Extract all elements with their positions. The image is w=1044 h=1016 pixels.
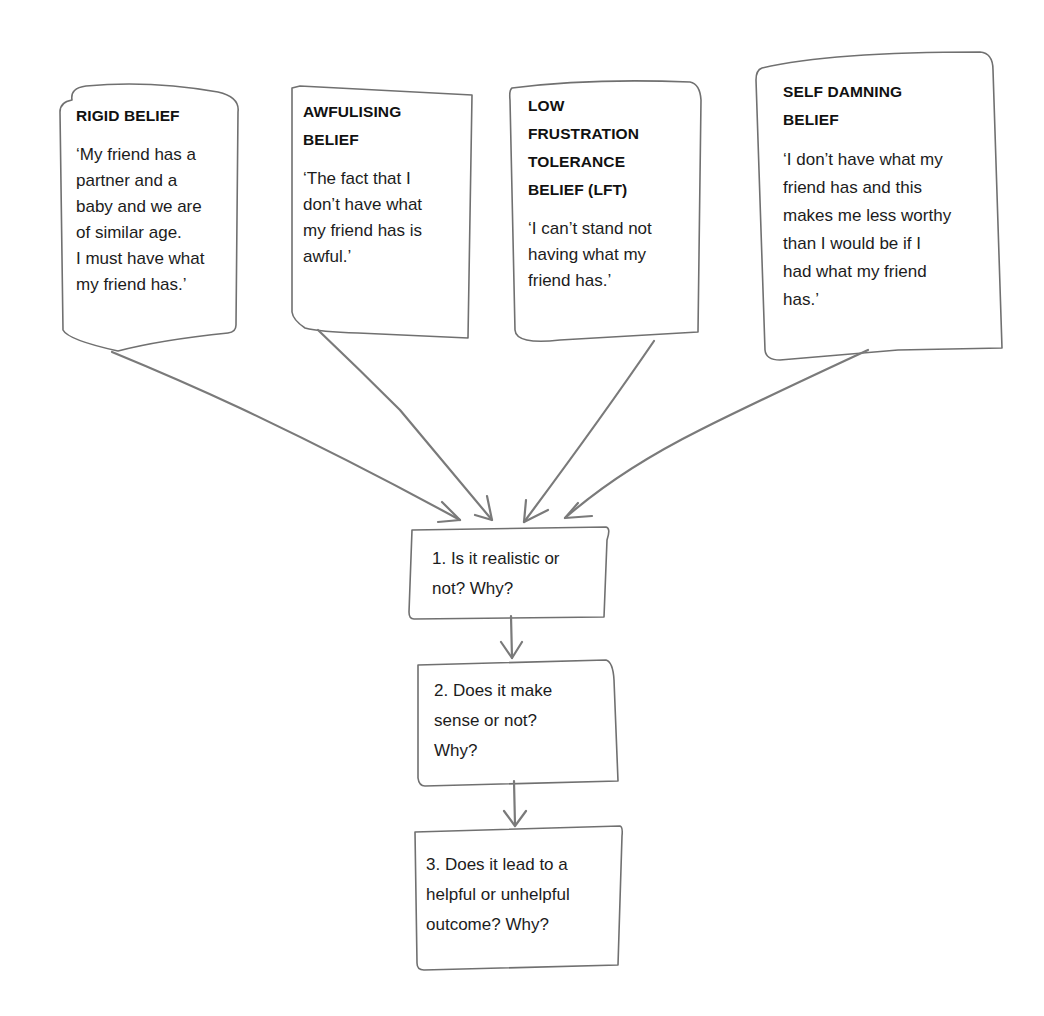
statement-line: than I would be if I [783,230,995,258]
statement-line: partner and a [76,168,236,194]
statement-line: ‘The fact that I [303,166,468,192]
statement-line: makes me less worthy [783,202,995,230]
rigid-belief-title: RIGID BELIEF [76,102,236,130]
lft-belief-title: LOW FRUSTRATION TOLERANCE BELIEF (LFT) [528,92,696,204]
statement-line: having what my [528,242,696,268]
title-line: TOLERANCE [528,148,696,176]
statement-line: don’t have what [303,192,468,218]
statement-line: of similar age. [76,220,236,246]
statement-line: ‘I can’t stand not [528,216,696,242]
awfulising-belief-title: AWFULISING BELIEF [303,98,468,154]
statement-line: ‘I don’t have what my [783,146,995,174]
arrow-from-self-damning [565,350,868,518]
title-line: SELF DAMNING [783,78,995,106]
lft-belief-box: LOW FRUSTRATION TOLERANCE BELIEF (LFT) ‘… [528,92,696,294]
statement-line: had what my friend [783,258,995,286]
arrow-from-rigid-belief [112,352,460,520]
question-line: helpful or unhelpful [426,880,618,910]
self-damning-belief-statement: ‘I don’t have what my friend has and thi… [783,146,995,314]
statement-line: ‘My friend has a [76,142,236,168]
statement-line: friend has and this [783,174,995,202]
statement-line: awful.’ [303,244,468,270]
title-line: FRUSTRATION [528,120,696,148]
statement-line: has.’ [783,286,995,314]
title-line: AWFULISING [303,98,468,126]
question-1-box: 1. Is it realistic or not? Why? [432,544,602,604]
arrow-q1-to-q2 [511,616,512,658]
awfulising-belief-box: AWFULISING BELIEF ‘The fact that I don’t… [303,98,468,270]
question-line: not? Why? [432,574,602,604]
statement-line: I must have what [76,246,236,272]
question-line: 3. Does it lead to a [426,850,618,880]
arrow-q2-to-q3 [514,781,515,825]
self-damning-belief-box: SELF DAMNING BELIEF ‘I don’t have what m… [783,78,995,314]
question-3-box: 3. Does it lead to a helpful or unhelpfu… [426,850,618,940]
statement-line: my friend has.’ [76,272,236,298]
statement-line: baby and we are [76,194,236,220]
question-line: Why? [434,736,609,766]
question-line: outcome? Why? [426,910,618,940]
rigid-belief-box: RIGID BELIEF ‘My friend has a partner an… [76,102,236,298]
question-line: sense or not? [434,706,609,736]
awfulising-belief-statement: ‘The fact that I don’t have what my frie… [303,166,468,270]
question-2-box: 2. Does it make sense or not? Why? [434,676,609,766]
self-damning-belief-title: SELF DAMNING BELIEF [783,78,995,134]
rigid-belief-statement: ‘My friend has a partner and a baby and … [76,142,236,298]
question-line: 1. Is it realistic or [432,544,602,574]
question-line: 2. Does it make [434,676,609,706]
lft-belief-statement: ‘I can’t stand not having what my friend… [528,216,696,294]
arrow-from-lft [524,341,654,522]
statement-line: my friend has is [303,218,468,244]
title-line: BELIEF [303,126,468,154]
statement-line: friend has.’ [528,268,696,294]
title-line: BELIEF [783,106,995,134]
title-line: BELIEF (LFT) [528,176,696,204]
title-line: LOW [528,92,696,120]
